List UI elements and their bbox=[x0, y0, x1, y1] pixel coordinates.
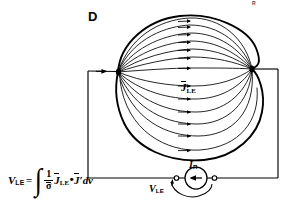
source-voltage-subscript: LE bbox=[156, 187, 164, 194]
field-vector-base: J bbox=[181, 82, 187, 93]
corner-mark: R bbox=[252, 1, 256, 6]
equation-term-source-current: J′ bbox=[74, 175, 83, 186]
equation-lhs-subscript: LE bbox=[15, 179, 24, 186]
flow-line bbox=[118, 41, 252, 72]
fraction-denominator: σ bbox=[45, 181, 52, 192]
equation-term1-base: J bbox=[54, 175, 60, 186]
flow-arrow bbox=[178, 27, 190, 28]
current-source-label: IR bbox=[189, 160, 198, 170]
conductivity-fraction: 1 σ bbox=[44, 169, 53, 191]
integral-sign: ∫ bbox=[34, 170, 41, 189]
equation-term2-prime: ′ bbox=[80, 174, 83, 186]
flow-line bbox=[118, 57, 252, 72]
left-convergence-node bbox=[116, 68, 121, 75]
terminal-left bbox=[174, 176, 179, 181]
field-vector-subscript: LE bbox=[187, 87, 197, 94]
equation-term2-base: J bbox=[74, 175, 80, 186]
figure-root: D R JLE IR VLE VLE = ∫ 1 σ JLE • J′ dv bbox=[0, 0, 293, 210]
right-convergence-node bbox=[249, 65, 254, 72]
equation-lhs: VLE bbox=[8, 175, 24, 186]
flow-line bbox=[118, 25, 252, 72]
voltage-arrow bbox=[172, 180, 173, 186]
fraction-numerator: 1 bbox=[45, 169, 52, 180]
dot-product-operator: • bbox=[70, 174, 74, 185]
equation-term1-subscript: LE bbox=[60, 179, 70, 186]
flow-line bbox=[118, 69, 252, 124]
field-vector-label: JLE bbox=[181, 82, 196, 93]
source-voltage-base: V bbox=[149, 183, 156, 194]
flow-arrow bbox=[178, 21, 190, 22]
differential-volume: dv bbox=[83, 175, 93, 186]
lead-field-equation: VLE = ∫ 1 σ JLE • J′ dv bbox=[8, 163, 93, 197]
equation-term-lead-field: JLE bbox=[54, 175, 69, 186]
current-source-subscript: R bbox=[193, 163, 198, 170]
source-voltage-label: VLE bbox=[149, 184, 164, 194]
panel-letter: D bbox=[88, 10, 98, 23]
terminal-right bbox=[212, 176, 217, 181]
current-source bbox=[174, 167, 217, 189]
equals-sign: = bbox=[26, 175, 32, 186]
